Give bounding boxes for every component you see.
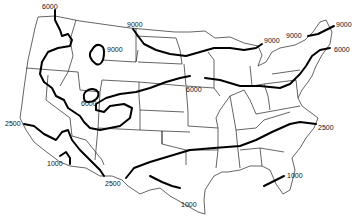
isoline-2500-southwest xyxy=(24,124,104,176)
contour-label: 6000 xyxy=(334,46,350,53)
contour-label: 9000 xyxy=(127,21,143,28)
contour-label: 9000 xyxy=(264,37,280,44)
state-borders xyxy=(26,20,300,168)
contour-label: 2500 xyxy=(318,124,334,131)
isoline-1000-texas xyxy=(150,176,180,188)
contour-label: 2500 xyxy=(5,120,21,127)
contour-label: 1000 xyxy=(47,160,63,167)
contour-label: 9000 xyxy=(336,21,352,28)
contour-map: 6000 9000 9000 6000 9000 9000 9000 6000 … xyxy=(0,0,352,219)
contour-label: 1000 xyxy=(287,172,303,179)
contour-label: 6000 xyxy=(42,3,58,10)
contour-label: 6000 xyxy=(186,86,202,93)
contour-label: 6000 xyxy=(81,100,97,107)
contour-label: 9000 xyxy=(107,46,123,53)
contour-label: 2500 xyxy=(105,180,121,187)
isoline-9000-wyoming-loop xyxy=(90,45,104,65)
isoline-6000-central xyxy=(205,48,330,88)
isoline-1000-florida xyxy=(264,176,284,186)
isoline-9000-northeast xyxy=(308,26,334,36)
contour-label: 1000 xyxy=(181,201,197,208)
contour-label: 9000 xyxy=(286,32,302,39)
